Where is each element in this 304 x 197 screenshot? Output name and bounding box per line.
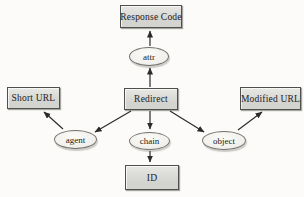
node-attr: attr <box>129 47 169 66</box>
diagram-canvas: Response Code attr Short URL Redirect Mo… <box>0 0 304 197</box>
node-id: ID <box>125 165 179 190</box>
node-chain: chain <box>129 132 170 150</box>
node-modified-url: Modified URL <box>240 87 301 110</box>
node-object: object <box>202 131 246 150</box>
edge-redirect-object <box>170 111 204 132</box>
edge-object-modified-url <box>238 112 262 130</box>
node-response-code: Response Code <box>120 5 182 28</box>
node-redirect: Redirect <box>124 88 178 110</box>
edge-redirect-agent <box>95 111 131 132</box>
node-agent: agent <box>54 130 97 149</box>
edge-agent-short-url <box>44 112 63 129</box>
node-short-url: Short URL <box>7 87 60 109</box>
